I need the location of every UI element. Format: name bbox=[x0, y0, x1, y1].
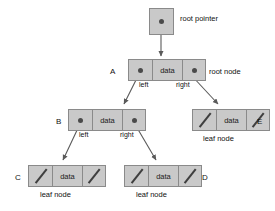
edge-label-b-left: left bbox=[79, 131, 88, 138]
root-pointer-box[interactable] bbox=[149, 8, 174, 35]
node-a-right-pointer-cell[interactable] bbox=[182, 60, 205, 80]
node-a[interactable]: data bbox=[128, 59, 206, 81]
edge-label-a-left: left bbox=[139, 81, 148, 88]
node-d-left-null-cell bbox=[125, 166, 148, 186]
null-slash-icon bbox=[198, 112, 210, 127]
pointer-dot-icon bbox=[78, 118, 83, 123]
node-a-caption: root node bbox=[209, 67, 241, 76]
edge-label-a-right: right bbox=[176, 81, 190, 88]
binary-tree-diagram: root pointer data A root node left right… bbox=[0, 0, 275, 211]
pointer-dot-icon bbox=[192, 68, 197, 73]
edge-b-right-to-d bbox=[136, 126, 156, 160]
node-a-left-pointer-cell[interactable] bbox=[129, 60, 152, 80]
pointer-dot-icon bbox=[159, 19, 164, 24]
node-a-label: A bbox=[110, 67, 115, 76]
null-slash-icon bbox=[130, 168, 142, 183]
node-b-left-pointer-cell[interactable] bbox=[69, 110, 92, 130]
node-e-caption: leaf node bbox=[203, 134, 234, 143]
node-c-caption: leaf node bbox=[40, 190, 71, 199]
node-d-label: D bbox=[202, 173, 208, 182]
node-a-data-cell: data bbox=[152, 60, 182, 80]
root-pointer-caption: root pointer bbox=[180, 14, 218, 23]
edge-label-b-right: right bbox=[120, 131, 134, 138]
node-b[interactable]: data bbox=[68, 109, 146, 131]
node-b-data-cell: data bbox=[92, 110, 122, 130]
node-d-data-cell: data bbox=[148, 166, 178, 186]
edge-b-left-to-c bbox=[63, 126, 79, 160]
node-c-right-null-cell bbox=[82, 166, 105, 186]
node-c-data-cell: data bbox=[52, 166, 82, 186]
null-slash-icon bbox=[184, 168, 196, 183]
node-d-right-null-cell bbox=[178, 166, 201, 186]
pointer-dot-icon bbox=[138, 68, 143, 73]
node-e-data-cell: data bbox=[216, 110, 246, 130]
null-slash-icon bbox=[34, 168, 46, 183]
node-c-left-null-cell bbox=[29, 166, 52, 186]
null-slash-icon bbox=[88, 168, 100, 183]
node-d-caption: leaf node bbox=[136, 190, 167, 199]
node-b-label: B bbox=[56, 117, 61, 126]
node-e-label: E bbox=[257, 117, 262, 126]
node-c[interactable]: data bbox=[28, 165, 106, 187]
pointer-dot-icon bbox=[132, 118, 137, 123]
node-e-left-null-cell bbox=[193, 110, 216, 130]
node-c-label: C bbox=[15, 173, 21, 182]
node-d[interactable]: data bbox=[124, 165, 202, 187]
node-b-right-pointer-cell[interactable] bbox=[122, 110, 145, 130]
